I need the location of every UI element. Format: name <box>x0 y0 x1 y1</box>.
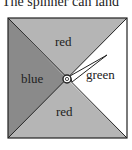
label-right: green <box>86 67 115 83</box>
label-bottom: red <box>56 104 73 120</box>
label-top: red <box>55 34 72 50</box>
label-left: blue <box>21 71 43 87</box>
